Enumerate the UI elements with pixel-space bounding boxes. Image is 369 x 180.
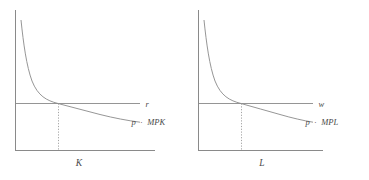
factor-market-figure: r p · MPK K w p · MPL L <box>0 0 369 180</box>
capital-curve-label-p: p <box>131 117 136 127</box>
capital-axis-label: K <box>75 158 83 168</box>
capital-curve-label: p · MPK <box>131 117 167 127</box>
capital-rental-rate-label: r <box>146 99 150 109</box>
labor-curve-label-mp: MPL <box>320 117 338 127</box>
capital-mpk-curve <box>21 20 140 122</box>
labor-curve-label-p: p <box>305 117 310 127</box>
capital-curve-label-separator: · <box>140 117 143 127</box>
labor-wage-label: w <box>319 99 325 109</box>
panel-capital: r p · MPK K <box>15 10 167 168</box>
labor-curve-label-separator: · <box>314 117 317 127</box>
panel-labor: w p · MPL L <box>198 10 339 168</box>
figure-canvas: r p · MPK K w p · MPL L <box>0 0 369 180</box>
capital-curve-label-mp: MPK <box>146 117 166 127</box>
labor-curve-label: p · MPL <box>305 117 339 127</box>
labor-mpl-curve <box>204 20 313 122</box>
labor-axis-label: L <box>258 158 264 168</box>
